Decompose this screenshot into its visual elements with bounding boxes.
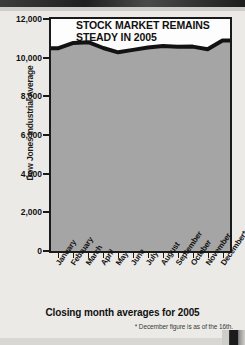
data-series-line <box>49 17 232 253</box>
chart-title: STOCK MARKET REMAINS STEADY IN 2005 <box>76 20 228 43</box>
chart-footnote: * December figure is as of the 16th. <box>0 323 233 330</box>
chart-figure: Dow Jones Industrial Average 02,0004,000… <box>0 0 245 345</box>
scan-artifact-corner <box>222 330 245 345</box>
y-tick-label: 12,000 <box>16 14 42 24</box>
scan-artifact-top-light <box>0 7 245 11</box>
chart-title-line-1: STOCK MARKET REMAINS <box>76 20 228 32</box>
chart-caption: Closing month averages for 2005 <box>0 307 245 318</box>
scan-artifact-top <box>0 0 245 7</box>
scan-artifact-bottom <box>0 338 245 345</box>
y-tick-label: 10,000 <box>16 53 42 63</box>
y-tick-label: 2,000 <box>21 207 42 217</box>
y-tick-label: 6,000 <box>21 130 42 140</box>
y-tick-label: 4,000 <box>21 169 42 179</box>
chart-title-line-2: STEADY IN 2005 <box>76 32 228 44</box>
y-tick-label: 0 <box>37 246 42 256</box>
y-tick-label: 8,000 <box>21 91 42 101</box>
series-area <box>51 41 230 252</box>
